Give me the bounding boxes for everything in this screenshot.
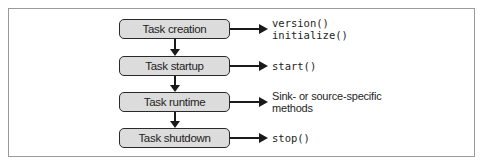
methods-task-runtime: Sink- or source-specific methods [272,90,382,114]
stage-box-task-creation: Task creation [119,19,230,39]
methods-task-creation: version() initialize() [272,17,348,41]
arrowhead-right-icon [259,133,268,143]
arrow-to-methods-creation [230,28,260,30]
method-version: version() [272,17,348,29]
stage-label: Task runtime [144,96,206,108]
stage-box-task-startup: Task startup [119,56,230,76]
stage-label: Task creation [143,23,207,35]
runtime-methods-line-1: Sink- or source-specific [272,90,382,102]
stage-box-task-runtime: Task runtime [119,92,230,112]
arrowhead-right-icon [259,97,268,107]
arrowhead-right-icon [259,24,268,34]
stage-box-task-shutdown: Task shutdown [119,128,230,148]
arrow-to-methods-runtime [230,101,260,103]
arrowhead-down-icon [170,49,180,56]
arrowhead-down-icon [170,121,180,128]
arrowhead-right-icon [259,61,268,71]
stage-label: Task shutdown [138,132,210,144]
methods-task-shutdown: stop() [272,132,310,144]
arrowhead-down-icon [170,85,180,92]
stage-label: Task startup [145,60,203,72]
method-start: start() [272,60,316,72]
runtime-methods-line-2: methods [272,102,382,114]
method-stop: stop() [272,132,310,144]
methods-task-startup: start() [272,60,316,72]
arrow-to-methods-shutdown [230,137,260,139]
arrow-to-methods-startup [230,65,260,67]
method-initialize: initialize() [272,29,348,41]
diagram-frame [8,8,475,157]
